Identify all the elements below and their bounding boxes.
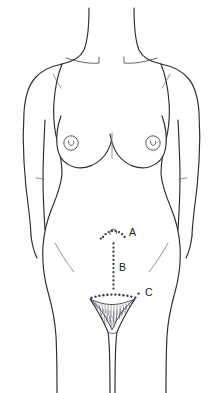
neck-left-contour: [62, 8, 89, 64]
label-b: B: [119, 261, 126, 273]
label-a: A: [129, 226, 136, 238]
right-forearm-contour: [186, 236, 192, 258]
body-outline-group: [23, 8, 200, 393]
neck-right-contour: [134, 8, 161, 64]
left-forearm-contour: [31, 236, 37, 258]
incision-b-midline-vertical: [112, 242, 114, 289]
nipple-right-areola: [146, 136, 160, 150]
nipple-left-areola: [64, 136, 78, 150]
figure-root: A B C: [0, 0, 224, 393]
incision-c-suprapubic-transverse: [90, 292, 140, 299]
incision-markings-group: [90, 230, 140, 299]
perineal-line: [108, 332, 117, 334]
label-c: C: [145, 286, 153, 298]
incision-a-periumbilical: [100, 230, 126, 240]
anatomy-diagram: A B C: [0, 0, 224, 393]
